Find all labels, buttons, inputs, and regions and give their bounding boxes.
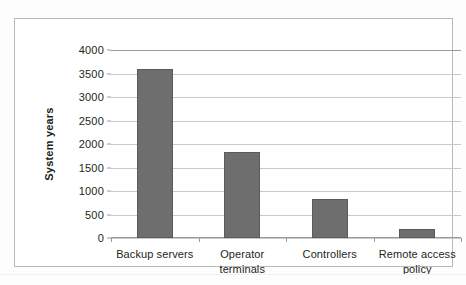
bar-slot [374, 50, 462, 238]
y-tick-label: 3000 [79, 91, 104, 103]
y-axis-title: System years [41, 50, 57, 238]
x-tick-mark [374, 238, 375, 242]
bar-series [111, 50, 461, 238]
y-tick-label: 500 [85, 209, 104, 221]
bar-slot [111, 50, 199, 238]
y-axis-title-label: System years [43, 107, 55, 180]
x-tick-mark [286, 238, 287, 242]
bar [137, 69, 173, 238]
x-tick-mark [111, 238, 112, 242]
y-tick-label: 2500 [79, 115, 104, 127]
bar-slot [199, 50, 287, 238]
x-axis-label: Backup servers [111, 247, 199, 277]
x-axis-labels: Backup serversOperator terminalsControll… [111, 247, 461, 277]
scan-artifact [0, 274, 466, 275]
bar [312, 199, 348, 238]
bar [399, 229, 435, 238]
scanned-page: System years 400035003000250020001500100… [0, 0, 466, 285]
y-tick-label: 0 [98, 232, 104, 244]
bar-slot [286, 50, 374, 238]
plot-area: 40003500300025002000150010005000 [111, 50, 461, 238]
y-tick-label: 4000 [79, 44, 104, 56]
y-tick-label: 1000 [79, 185, 104, 197]
x-axis-label: Remote access policy [374, 247, 462, 277]
bar [224, 152, 260, 238]
y-tick-label: 2000 [79, 138, 104, 150]
x-tick-mark [461, 238, 462, 242]
y-tick-label: 1500 [79, 162, 104, 174]
x-axis-label: Operator terminals [199, 247, 287, 277]
y-tick-label: 3500 [79, 68, 104, 80]
chart-frame: System years 400035003000250020001500100… [14, 18, 453, 267]
x-tick-mark [199, 238, 200, 242]
x-axis-label: Controllers [286, 247, 374, 277]
